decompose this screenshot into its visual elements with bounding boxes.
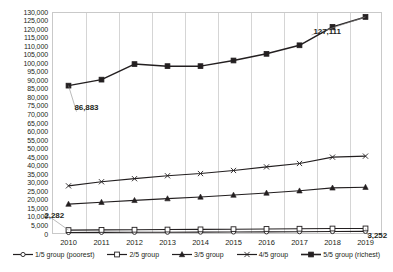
x-axis-tick-label: 2015 [218, 238, 250, 247]
x-axis-tick-label: 2018 [317, 238, 349, 247]
data-point-open-square [231, 227, 236, 232]
legend-marker-open-square-icon [107, 250, 127, 259]
x-axis-tick-label: 2011 [86, 238, 118, 247]
x-axis-tick-label: 2017 [284, 238, 316, 247]
data-point-filled-square [309, 252, 314, 257]
series-line [69, 156, 366, 186]
series-line [69, 228, 366, 230]
y-axis-tick-label: 105,000 [2, 51, 48, 58]
legend-marker-filled-triangle-icon [172, 250, 192, 259]
y-axis-tick-label: 25,000 [2, 188, 48, 195]
y-axis-tick-label: 5,000 [2, 222, 48, 229]
legend-item-3[interactable]: 3/5 group [172, 250, 224, 259]
data-point-open-square [198, 227, 203, 232]
series-4 [66, 154, 368, 189]
legend-label: 1/5 group (poorest) [35, 251, 95, 259]
legend-item-4[interactable]: 4/5 group [237, 250, 289, 259]
data-point-filled-square [198, 64, 203, 69]
y-axis-tick-label: 10,000 [2, 213, 48, 220]
series-line [69, 187, 366, 204]
x-axis-tick-label: 2016 [251, 238, 283, 247]
series-line [69, 231, 366, 232]
y-axis-tick-label: 115,000 [2, 34, 48, 41]
y-axis-tick-label: 120,000 [2, 26, 48, 33]
line-chart: 130,000125,000120,000115,000110,000105,0… [0, 0, 393, 272]
data-point-filled-square [165, 64, 170, 69]
series-layer [52, 12, 382, 234]
data-point-filled-square [264, 51, 269, 56]
y-axis-tick-label: 35,000 [2, 171, 48, 178]
y-axis-tick-label: 80,000 [2, 94, 48, 101]
data-value-label: 2,282 [45, 211, 65, 220]
y-axis-tick-label: 90,000 [2, 77, 48, 84]
y-axis-tick-label: 70,000 [2, 111, 48, 118]
x-axis-tick-label: 2013 [152, 238, 184, 247]
data-point-open-square [99, 228, 104, 233]
y-axis-tick-label: 65,000 [2, 120, 48, 127]
y-axis-tick-label: 125,000 [2, 17, 48, 24]
legend-label: 5/5 group (richest) [323, 251, 380, 259]
data-value-label: 86,883 [75, 103, 99, 112]
y-axis-tick-label: 45,000 [2, 154, 48, 161]
legend-marker-filled-square-icon [301, 250, 321, 259]
legend-item-2[interactable]: 2/5 group [107, 250, 159, 259]
data-point-open-square [115, 252, 120, 257]
data-value-label: 127,111 [314, 27, 341, 36]
y-axis-tick-label: 100,000 [2, 60, 48, 67]
legend-item-5[interactable]: 5/5 group (richest) [301, 250, 380, 259]
y-axis-tick-label: 85,000 [2, 85, 48, 92]
legend-label: 3/5 group [194, 251, 224, 259]
data-value-label: 3,252 [368, 231, 388, 240]
legend-item-1[interactable]: 1/5 group (poorest) [13, 250, 95, 259]
data-point-open-square [132, 227, 137, 232]
y-axis-tick-label: 40,000 [2, 162, 48, 169]
data-point-open-square [297, 226, 302, 231]
legend-label: 4/5 group [259, 251, 289, 259]
y-axis-tick-label: 55,000 [2, 137, 48, 144]
y-axis-tick-label: 20,000 [2, 196, 48, 203]
legend-marker-cross-bar-icon [237, 250, 257, 259]
chart-legend: 1/5 group (poorest)2/5 group3/5 group4/5… [0, 250, 393, 259]
y-axis-tick-label: 130,000 [2, 9, 48, 16]
x-axis-tick-label: 2010 [53, 238, 85, 247]
data-point-open-square [264, 227, 269, 232]
legend-label: 2/5 group [129, 251, 159, 259]
data-point-filled-square [132, 62, 137, 67]
data-point-open-square [165, 227, 170, 232]
y-axis-tick-label: 0 [2, 231, 48, 238]
x-axis-tick-label: 2012 [119, 238, 151, 247]
y-axis-tick-label: 110,000 [2, 43, 48, 50]
data-point-open-square [330, 226, 335, 231]
y-axis-tick-label: 75,000 [2, 102, 48, 109]
data-point-filled-square [99, 77, 104, 82]
data-point-open-circle [21, 252, 25, 256]
data-point-filled-square [297, 43, 302, 48]
y-axis-tick-label: 50,000 [2, 145, 48, 152]
data-point-open-square [66, 228, 71, 233]
series-3 [66, 184, 368, 206]
y-axis-tick-label: 15,000 [2, 205, 48, 212]
y-axis-tick-label: 95,000 [2, 68, 48, 75]
legend-marker-open-circle-icon [13, 250, 33, 259]
y-axis-tick-label: 60,000 [2, 128, 48, 135]
y-axis-tick-label: 30,000 [2, 179, 48, 186]
y-axis: 130,000125,000120,000115,000110,000105,0… [0, 0, 48, 272]
data-point-filled-square [231, 58, 236, 63]
series-5 [66, 15, 368, 88]
x-axis-tick-label: 2014 [185, 238, 217, 247]
